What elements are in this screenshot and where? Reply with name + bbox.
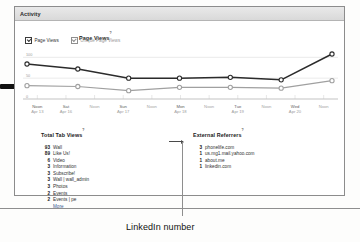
referrer-row[interactable]: 1linkedin.com — [193, 164, 333, 169]
stat-label[interactable]: Wall | wall_admin — [53, 177, 89, 182]
tab-views-row[interactable]: 3Photos — [41, 184, 161, 189]
tab-views-row[interactable]: 6Video — [41, 158, 161, 163]
x-axis-tick: SunApr 17 — [117, 105, 129, 115]
chart-data-point[interactable] — [330, 79, 334, 83]
legend-item-page-views[interactable]: Page Views — [25, 37, 59, 44]
chart-data-point[interactable] — [279, 86, 283, 90]
x-axis-tick-day: Noon — [90, 105, 100, 110]
stat-count: 6 — [41, 158, 50, 163]
chart-series-group — [25, 52, 334, 93]
stat-count: 3 — [193, 145, 202, 150]
stat-label[interactable]: Like Us! — [53, 151, 70, 156]
x-axis-tick-day: Noon — [147, 105, 157, 110]
stat-label[interactable]: linkedin.com — [205, 164, 231, 169]
x-axis-tick-date: Apr 13 — [31, 110, 43, 115]
stat-count: 2 — [41, 191, 50, 196]
chart-data-point[interactable] — [330, 52, 334, 56]
stat-label[interactable]: phonelife.com — [205, 145, 234, 150]
checkbox-checked-icon[interactable] — [25, 37, 32, 44]
referrers-title: External Referrers? — [193, 123, 333, 141]
x-axis-tick-date: Apr 19 — [232, 110, 244, 115]
chart-data-point[interactable] — [25, 62, 29, 66]
checkbox-checked-icon[interactable] — [71, 37, 78, 44]
x-axis-tick: Noon — [319, 105, 329, 110]
stat-count: 89 — [41, 151, 50, 156]
stat-count: 3 — [41, 184, 50, 189]
x-axis-tick-date: Apr 17 — [117, 110, 129, 115]
chart-y-tick-label: 0 — [26, 95, 28, 99]
chart-y-tick-label: 50 — [26, 74, 30, 78]
legend-item-unique-page-views[interactable]: Unique Page Views — [71, 37, 121, 44]
stat-label[interactable]: Events — [53, 191, 67, 196]
chart-y-tick-labels: 100500 — [26, 53, 32, 99]
x-axis-tick: MonApr 18 — [174, 105, 186, 115]
referrers-title-text: External Referrers — [193, 132, 242, 138]
more-link[interactable]: More — [53, 204, 161, 209]
tab-views-row[interactable]: 89Like Us! — [41, 151, 161, 156]
referrers-section: External Referrers? 3phonelife.com1us.mg… — [193, 123, 333, 171]
chart-canvas: 100500 — [23, 47, 338, 105]
help-superscript-icon: ? — [242, 128, 244, 132]
chart-data-point[interactable] — [127, 89, 131, 93]
chart-data-point[interactable] — [228, 75, 232, 79]
tab-views-section: Total Tab Views? 93Wall89Like Us!6Video3… — [41, 123, 161, 209]
x-axis-tick-day: Noon — [204, 105, 214, 110]
referrer-row[interactable]: 3phonelife.com — [193, 145, 333, 150]
stat-count: 1 — [193, 151, 202, 156]
tab-views-row[interactable]: 93Wall — [41, 145, 161, 150]
chart-data-point[interactable] — [279, 78, 283, 82]
tab-views-title-text: Total Tab Views — [41, 132, 82, 138]
stat-label[interactable]: Video — [53, 158, 65, 163]
x-axis-tick: WedApr 20 — [289, 105, 301, 115]
panel-body: Page Views? Page Views Unique Page Views… — [15, 21, 344, 196]
chart-x-axis-labels: NoonApr 13SatApr 16NoonSunApr 17NoonMonA… — [23, 105, 338, 119]
stat-label[interactable]: Events | pe — [53, 197, 76, 202]
tab-views-row[interactable]: 2Events — [41, 191, 161, 196]
stat-label[interactable]: about.me — [205, 158, 225, 163]
stat-label[interactable]: Wall — [53, 145, 62, 150]
stat-count: 1 — [193, 158, 202, 163]
chart-data-point[interactable] — [76, 67, 80, 71]
chart-data-point[interactable] — [76, 84, 80, 88]
activity-panel: Activity Page Views? Page Views Unique P… — [14, 6, 345, 196]
chart-y-tick-label: 100 — [26, 53, 32, 57]
x-axis-tick: TueApr 19 — [232, 105, 244, 115]
tab-views-row[interactable]: 3Wall | wall_admin — [41, 177, 161, 182]
stat-label[interactable]: Information — [53, 164, 76, 169]
panel-title: Activity — [20, 11, 41, 17]
chart-legend: Page Views Unique Page Views — [25, 37, 120, 44]
x-axis-tick: NoonApr 13 — [31, 105, 43, 115]
stat-label[interactable]: Photos — [53, 184, 68, 189]
tab-views-row[interactable]: 3Subscribe! — [41, 171, 161, 176]
referrer-row[interactable]: 1us.mg1.mail.yahoo.com — [193, 151, 333, 156]
x-axis-tick-day: Noon — [319, 105, 329, 110]
referrer-row[interactable]: 1about.me — [193, 158, 333, 163]
x-axis-tick-date: Apr 18 — [174, 110, 186, 115]
stat-count: 93 — [41, 145, 50, 150]
x-axis-tick-date: Apr 20 — [289, 110, 301, 115]
stat-count: 3 — [41, 171, 50, 176]
x-axis-tick: Noon — [261, 105, 271, 110]
x-axis-tick: Noon — [90, 105, 100, 110]
chart-data-point[interactable] — [127, 76, 131, 80]
tab-views-row[interactable]: 3Information — [41, 164, 161, 169]
x-axis-tick: SatApr 16 — [60, 105, 72, 115]
chart-data-point[interactable] — [177, 85, 181, 89]
referrers-list: 3phonelife.com1us.mg1.mail.yahoo.com1abo… — [193, 145, 333, 170]
line-chart: 100500 — [23, 47, 338, 105]
stat-count: 1 — [193, 164, 202, 169]
x-axis-tick: Noon — [147, 105, 157, 110]
tab-views-title: Total Tab Views? — [41, 123, 161, 141]
stat-label[interactable]: Subscribe! — [53, 171, 75, 176]
stat-count: 2 — [41, 197, 50, 202]
chart-data-point[interactable] — [177, 76, 181, 80]
annotation-caption: LinkedIn number — [126, 222, 195, 232]
legend-label-unique-page-views: Unique Page Views — [80, 38, 120, 43]
tab-views-row[interactable]: 2Events | pe — [41, 197, 161, 202]
chart-data-point[interactable] — [25, 84, 29, 88]
chart-data-point[interactable] — [228, 85, 232, 89]
x-axis-tick: Noon — [204, 105, 214, 110]
tab-views-list: 93Wall89Like Us!6Video3Information3Subsc… — [41, 145, 161, 203]
panel-header: Activity — [15, 7, 344, 21]
stat-label[interactable]: us.mg1.mail.yahoo.com — [205, 151, 255, 156]
